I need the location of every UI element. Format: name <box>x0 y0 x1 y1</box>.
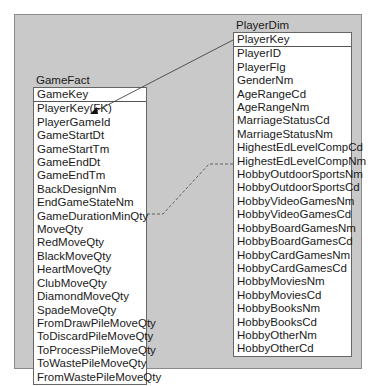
arrowhead-icon <box>90 107 98 114</box>
dashed-relationship-line[interactable] <box>147 164 233 214</box>
relationship-lines <box>0 0 376 386</box>
fk-relationship-line[interactable] <box>94 40 233 112</box>
